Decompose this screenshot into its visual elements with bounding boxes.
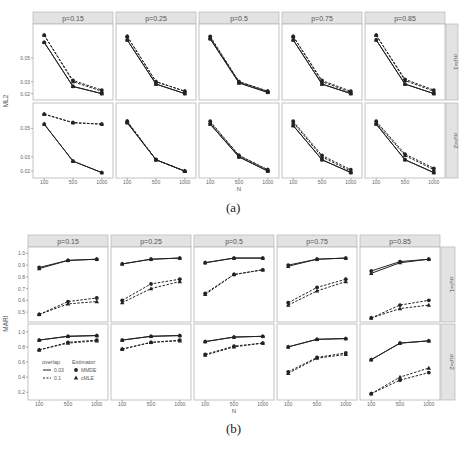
legend-overlap-title: overlap <box>42 359 60 365</box>
x-tick-label: 1000 <box>174 401 185 407</box>
panel-σu²=2-p=0.25: 1005001000 <box>111 324 191 407</box>
mmde-marker <box>427 371 431 375</box>
x-tick-label: 100 <box>35 401 44 407</box>
y-tick-label: 1.0 <box>18 250 25 256</box>
panel-σu²=2-p=0.15: 0.050.030.021005001000 <box>20 103 113 185</box>
panel-σu²=1-p=0.25 <box>111 247 191 322</box>
x-tick-label: 1000 <box>423 401 434 407</box>
figure-b: p=0.15p=0.25p=0.5p=0.75p=0.85σu²=1σu²=2M… <box>2 235 455 414</box>
x-tick-label: 500 <box>401 179 410 185</box>
x-tick-label: 100 <box>118 401 127 407</box>
y-tick-label: 0.7 <box>18 286 25 292</box>
y-tick-label: 0.6 <box>18 297 25 303</box>
facet-label: p=0.5 <box>230 15 248 23</box>
x-axis-label: N <box>237 186 241 192</box>
x-tick-label: 500 <box>396 401 405 407</box>
legend-overlap-label: 0.1 <box>54 375 61 381</box>
x-tick-label: 500 <box>313 401 322 407</box>
y-tick-label: 0.9 <box>18 262 25 268</box>
panel-σu²=1-p=0.15: 1.00.90.80.70.60.5 <box>18 247 108 322</box>
x-tick-label: 100 <box>123 179 132 185</box>
mmde-marker <box>398 378 402 382</box>
legend-estimator-label: MMDE <box>81 367 97 373</box>
panel-σu²=2-p=0.5: 1005001000 <box>199 103 279 185</box>
x-tick-label: 100 <box>367 401 376 407</box>
panel-σu²=2-p=0.15: 1.00.80.60.40.21005001000 <box>18 324 108 407</box>
x-tick-label: 500 <box>318 179 327 185</box>
facet-label: p=0.75 <box>311 15 333 23</box>
x-tick-label: 100 <box>289 179 298 185</box>
y-tick-label: 0.03 <box>20 154 30 160</box>
facet-label: p=0.15 <box>57 238 79 246</box>
facet-label: p=0.85 <box>389 238 411 246</box>
x-tick-label: 500 <box>235 179 244 185</box>
mmde-marker <box>149 282 153 286</box>
x-tick-label: 500 <box>230 401 239 407</box>
y-axis-label: MARI <box>2 315 9 331</box>
x-tick-label: 100 <box>284 401 293 407</box>
mmde-marker <box>74 368 78 372</box>
panel-σu²=2-p=0.75: 1005001000 <box>282 103 362 185</box>
x-tick-label: 1000 <box>257 401 268 407</box>
x-axis-label: N <box>232 408 236 414</box>
panel-σu²=1-p=0.75 <box>277 247 357 322</box>
panel-σu²=1-p=0.25 <box>116 24 196 100</box>
panel-σu²=2-p=0.75: 1005001000 <box>277 324 357 407</box>
row-label: σu²=1 <box>453 54 459 71</box>
y-tick-label: 0.6 <box>18 359 25 365</box>
panel-σu²=2-p=0.85: 1005001000 <box>365 103 445 185</box>
y-tick-label: 0.4 <box>18 374 25 380</box>
x-tick-label: 1000 <box>340 401 351 407</box>
panel-σu²=1-p=0.5 <box>199 24 279 100</box>
x-tick-label: 100 <box>201 401 210 407</box>
x-tick-label: 1000 <box>179 179 190 185</box>
panel-σu²=1-p=0.5 <box>194 247 274 322</box>
y-tick-label: 0.05 <box>20 125 30 131</box>
panel-σu²=1-p=0.15: 0.050.030.02 <box>20 24 113 100</box>
panel-σu²=1-p=0.75 <box>282 24 362 100</box>
y-axis-label: ML2 <box>2 94 9 107</box>
facet-label: p=0.15 <box>62 15 84 23</box>
x-tick-label: 1000 <box>262 179 273 185</box>
caption-a: (a) <box>226 200 240 216</box>
x-tick-label: 500 <box>69 179 78 185</box>
y-tick-label: 0.8 <box>18 274 25 280</box>
row-label: σu²=2 <box>453 133 459 150</box>
row-label: σu²=2 <box>449 354 455 371</box>
x-tick-label: 100 <box>372 179 381 185</box>
x-tick-label: 100 <box>206 179 215 185</box>
legend-estimator-title: Estimator <box>72 359 95 365</box>
x-tick-label: 1000 <box>91 401 102 407</box>
x-tick-label: 500 <box>64 401 73 407</box>
y-tick-label: 0.8 <box>18 344 25 350</box>
x-tick-label: 1000 <box>96 179 107 185</box>
caption-b: (b) <box>226 421 241 437</box>
legend-estimator-label: cMLE <box>81 375 94 381</box>
panel-σu²=2-p=0.85: 1005001000 <box>360 324 440 407</box>
y-tick-label: 0.02 <box>20 91 30 97</box>
panel-σu²=1-p=0.85 <box>360 247 440 322</box>
panel-σu²=1-p=0.85 <box>365 24 445 100</box>
x-tick-label: 1000 <box>345 179 356 185</box>
figure-a: p=0.15p=0.25p=0.5p=0.75p=0.85σu²=1σu²=2M… <box>2 12 459 192</box>
facet-label: p=0.5 <box>225 238 243 246</box>
mmde-marker <box>427 298 431 302</box>
x-tick-label: 100 <box>40 179 49 185</box>
facet-label: p=0.75 <box>306 238 328 246</box>
y-tick-label: 0.5 <box>18 309 25 315</box>
legend-overlap-label: 0.03 <box>54 367 64 373</box>
x-tick-label: 1000 <box>428 179 439 185</box>
y-tick-label: 0.03 <box>20 79 30 85</box>
faceted-line-charts: p=0.15p=0.25p=0.5p=0.75p=0.85σu²=1σu²=2M… <box>0 0 472 449</box>
y-tick-label: 0.2 <box>18 389 25 395</box>
facet-label: p=0.25 <box>140 238 162 246</box>
facet-label: p=0.25 <box>145 15 167 23</box>
x-tick-label: 500 <box>147 401 156 407</box>
y-tick-label: 0.02 <box>20 168 30 174</box>
panel-σu²=2-p=0.25: 1005001000 <box>116 103 196 185</box>
y-tick-label: 1.0 <box>18 329 25 335</box>
facet-label: p=0.85 <box>394 15 416 23</box>
panel-σu²=2-p=0.5: 1005001000 <box>194 324 274 407</box>
row-label: σu²=1 <box>449 277 455 294</box>
y-tick-label: 0.05 <box>20 55 30 61</box>
